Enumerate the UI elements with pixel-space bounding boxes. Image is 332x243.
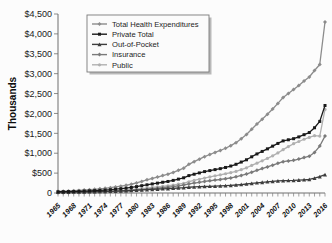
data-point — [261, 159, 264, 162]
data-point — [250, 170, 254, 174]
legend-label: Private Total — [112, 30, 154, 39]
data-point — [234, 170, 237, 173]
data-point — [150, 176, 154, 180]
data-point — [140, 184, 143, 187]
data-point — [145, 178, 149, 182]
data-point — [240, 161, 243, 164]
data-point — [129, 182, 133, 186]
data-point — [93, 189, 96, 192]
data-point — [271, 154, 274, 157]
data-point — [77, 190, 80, 193]
data-point — [135, 181, 139, 185]
data-point — [260, 167, 264, 171]
data-point — [172, 179, 175, 182]
data-point — [282, 148, 285, 151]
data-point — [130, 186, 133, 189]
data-point — [197, 180, 201, 184]
x-axis-label: 2007 — [264, 200, 283, 219]
data-point — [239, 173, 243, 177]
data-point — [240, 168, 243, 171]
legend-label: Total Health Expenditures — [112, 20, 199, 29]
data-point — [208, 179, 212, 183]
data-point — [286, 159, 290, 163]
data-point — [208, 175, 211, 178]
x-axis-label: 2013 — [295, 200, 314, 219]
x-axis-label: 1992 — [186, 200, 205, 219]
data-point — [203, 179, 207, 183]
legend-label: Insurance — [112, 50, 145, 59]
data-point — [287, 145, 290, 148]
data-point — [67, 190, 70, 193]
data-point — [208, 152, 212, 156]
data-point — [224, 166, 227, 169]
data-point — [266, 147, 269, 150]
data-point — [313, 134, 316, 137]
series-line — [58, 136, 325, 193]
x-axis-label: 2004 — [248, 201, 267, 220]
data-point — [187, 174, 190, 177]
data-point — [244, 172, 248, 176]
data-point — [214, 168, 217, 171]
series-public — [56, 108, 326, 194]
data-point — [213, 150, 217, 154]
data-point — [219, 167, 222, 170]
data-point — [218, 148, 222, 152]
data-point — [308, 136, 311, 139]
data-point — [88, 189, 91, 192]
data-point — [57, 190, 60, 193]
data-point — [292, 158, 296, 162]
data-point — [198, 171, 201, 174]
y-axis-title: Thousands — [7, 76, 18, 130]
y-axis-label: $1,000 — [24, 148, 52, 158]
data-point — [161, 181, 164, 184]
data-point — [224, 177, 228, 181]
x-axis-label: 1983 — [139, 200, 158, 219]
data-point — [302, 156, 306, 160]
y-axis-label: $2,500 — [24, 89, 52, 99]
data-point — [235, 163, 238, 166]
data-point — [292, 137, 295, 140]
data-point — [276, 161, 280, 165]
data-point — [255, 152, 258, 155]
y-axis-label: $3,500 — [24, 49, 52, 59]
data-point — [255, 168, 259, 172]
data-point — [250, 164, 253, 167]
data-point — [218, 177, 222, 181]
data-point — [155, 175, 159, 179]
data-point — [308, 131, 311, 134]
x-axis-label: 2010 — [279, 200, 298, 219]
data-point — [276, 142, 279, 145]
data-point — [318, 120, 321, 123]
data-point — [229, 176, 233, 180]
data-point — [119, 187, 122, 190]
x-axis-label: 1977 — [107, 200, 126, 219]
x-axis-label: 1974 — [92, 201, 110, 219]
data-point — [276, 151, 279, 154]
data-point — [171, 170, 175, 174]
data-point — [281, 160, 285, 164]
data-point — [203, 155, 207, 159]
x-axis-label: 2001 — [232, 201, 251, 220]
x-axis-label: 1965 — [44, 200, 63, 219]
y-axis-label: $4,500 — [24, 9, 52, 19]
data-point — [255, 162, 258, 165]
data-point — [98, 63, 101, 66]
data-point — [83, 190, 86, 193]
data-point — [297, 140, 300, 143]
data-point — [297, 157, 301, 161]
data-point — [229, 165, 232, 168]
data-point — [125, 187, 128, 190]
data-point — [182, 176, 185, 179]
data-point — [261, 150, 264, 153]
x-axis-label: 1968 — [60, 200, 79, 219]
y-axis-label: $500 — [32, 168, 52, 178]
health-expenditures-chart: $4,500$4,000$3,500$3,000$2,500$2,000$1,5… — [0, 0, 332, 243]
data-point — [109, 188, 112, 191]
data-point — [229, 171, 232, 174]
data-point — [297, 135, 300, 138]
data-point — [282, 139, 285, 142]
data-point — [213, 174, 216, 177]
data-point — [114, 188, 117, 191]
data-point — [271, 163, 275, 167]
data-point — [245, 158, 248, 161]
